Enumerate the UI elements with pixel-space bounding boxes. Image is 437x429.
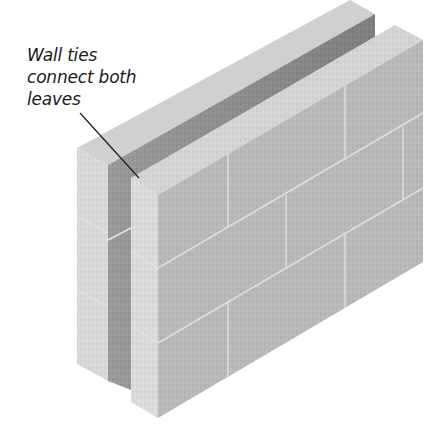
annotation-line-3: leaves <box>27 88 136 110</box>
annotation-line-1: Wall ties <box>27 44 136 66</box>
wall-ties-annotation: Wall ties connect both leaves <box>27 44 136 110</box>
annotation-line-2: connect both <box>27 66 136 88</box>
